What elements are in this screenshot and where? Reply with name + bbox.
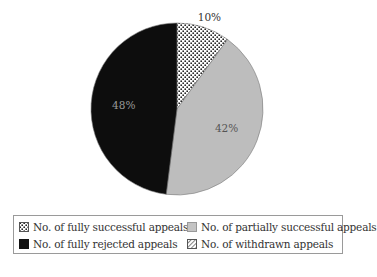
slice-percent-label: 10%	[198, 11, 221, 23]
legend-label: No. of fully successful appeals	[33, 221, 188, 233]
black-swatch-icon	[19, 239, 29, 249]
legend-item-fully-rejected: No. of fully rejected appeals	[19, 238, 177, 250]
legend-label: No. of partially successful appeals	[201, 221, 377, 233]
hatched-swatch-icon	[187, 239, 197, 249]
legend-item-withdrawn: No. of withdrawn appeals	[187, 238, 333, 250]
legend-label: No. of withdrawn appeals	[201, 238, 333, 250]
pie-chart: 10%42%48%	[0, 0, 359, 210]
chart-legend: No. of fully successful appeals No. of p…	[13, 215, 343, 254]
slice-percent-label: 48%	[112, 99, 135, 111]
legend-label: No. of fully rejected appeals	[33, 238, 177, 250]
gray-swatch-icon	[187, 222, 197, 232]
dotted-swatch-icon	[19, 222, 29, 232]
legend-item-partially-successful: No. of partially successful appeals	[187, 221, 377, 233]
slice-percent-label: 42%	[215, 122, 238, 134]
legend-item-fully-successful: No. of fully successful appeals	[19, 221, 188, 233]
